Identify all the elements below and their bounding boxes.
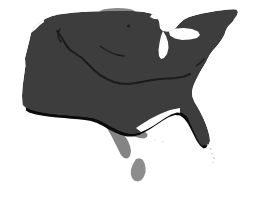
- speck-1: [210, 148, 212, 150]
- speck-7: [154, 139, 155, 140]
- us-map-graphic: [0, 0, 256, 197]
- speck-5: [207, 144, 208, 145]
- speck-3: [213, 157, 215, 159]
- interior-dot-marker: [127, 24, 130, 27]
- speck-4: [212, 162, 213, 163]
- speck-6: [162, 141, 164, 143]
- speck-2: [211, 153, 213, 155]
- map-canvas: [0, 0, 256, 197]
